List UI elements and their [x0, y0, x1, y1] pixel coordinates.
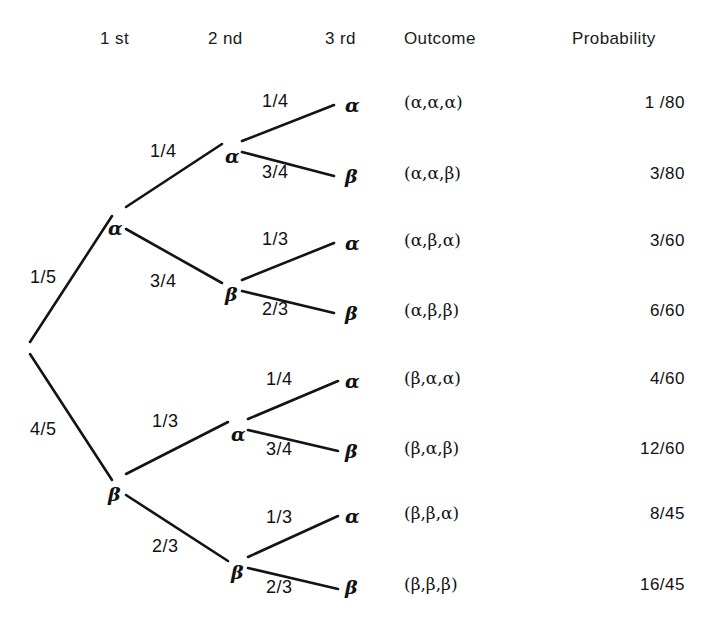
node-beta-level1: β: [108, 485, 121, 504]
edge-beta-beta-alpha-line: [248, 516, 338, 557]
edge-beta-beta-label: 2/3: [152, 537, 179, 555]
row-abb-probability: 6/60: [0, 302, 685, 319]
edge-root-beta-label: 4/5: [30, 420, 57, 438]
column-header-second: 2 nd: [208, 30, 243, 47]
node-alpha-alpha: α: [225, 147, 240, 166]
column-header-first: 1 st: [100, 30, 129, 47]
column-header-outcome: Outcome: [404, 30, 476, 47]
row-aab-probability: 3/80: [0, 165, 685, 182]
edge-beta-alpha-label: 1/3: [152, 412, 179, 430]
edge-root-alpha-label: 1/5: [30, 268, 57, 286]
row-bba-probability: 8/45: [0, 505, 685, 522]
probability-tree-figure: 1 st2 nd3 rdOutcomeProbability 1/54/51/4…: [0, 0, 707, 638]
edge-alpha-beta-label: 3/4: [150, 272, 177, 290]
row-bbb-probability: 16/45: [0, 576, 685, 593]
row-bab-probability: 12/60: [0, 440, 685, 457]
row-aaa-probability: 1 /80: [0, 94, 685, 111]
row-baa-probability: 4/60: [0, 370, 685, 387]
edge-alpha-alpha-label: 1/4: [150, 142, 177, 160]
row-aba-probability: 3/60: [0, 232, 685, 249]
column-header-third: 3 rd: [325, 30, 356, 47]
column-header-probability: Probability: [572, 30, 656, 47]
